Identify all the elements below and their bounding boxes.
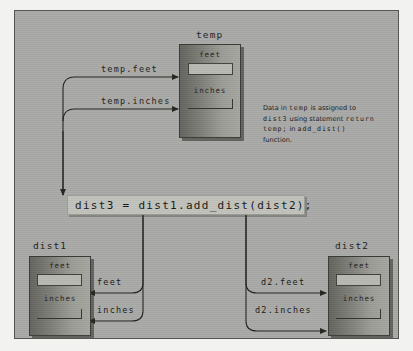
object-box-temp: feet inches <box>179 44 241 138</box>
object-label-dist1: dist1 <box>33 240 67 251</box>
note-line1-mono: temp <box>289 104 308 112</box>
field-label-dist2-inches: inches <box>329 294 389 303</box>
wire-label-dist2-inches: d2.inches <box>255 305 312 315</box>
note-line2-mono: dist3 <box>263 115 287 123</box>
note-line4-mono: add_dist() <box>298 125 347 133</box>
note-line2-post: using statement <box>287 115 343 123</box>
wire-label-dist2-feet: d2.feet <box>261 277 305 287</box>
field-slot-dist1-feet <box>37 274 82 286</box>
wire-temp-inches <box>63 109 178 121</box>
note-line1-post: is assigned to <box>308 104 356 112</box>
object-box-dist2: feet inches <box>328 256 390 336</box>
field-slot-dist2-inches <box>336 309 381 319</box>
wire-label-temp-inches: temp.inches <box>101 96 171 106</box>
note-line1-pre: Data in <box>263 104 289 112</box>
field-label-temp-feet: feet <box>180 50 240 59</box>
wire-label-temp-feet: temp.feet <box>101 64 158 74</box>
object-label-dist2: dist2 <box>335 240 369 251</box>
field-label-dist2-feet: feet <box>329 261 389 270</box>
statement-band: dist3 = dist1.add_dist(dist2); <box>67 195 305 215</box>
wire-label-dist1-feet: feet <box>97 277 122 287</box>
object-label-temp: temp <box>196 29 223 40</box>
field-label-temp-inches: inches <box>180 86 240 95</box>
wire-label-dist1-inches: inches <box>97 305 135 315</box>
diagram-panel: temp feet inches temp.feet temp.inches D… <box>14 10 399 339</box>
object-box-dist1: feet inches <box>29 256 91 336</box>
field-slot-temp-inches <box>188 99 233 109</box>
field-slot-temp-feet <box>188 63 233 75</box>
field-slot-dist1-inches <box>37 309 82 319</box>
wire-temp-feet <box>63 77 178 195</box>
note-line4-post: function. <box>263 136 292 144</box>
field-label-dist1-inches: inches <box>30 294 90 303</box>
field-label-dist1-feet: feet <box>30 261 90 270</box>
diagram-figure: temp feet inches temp.feet temp.inches D… <box>0 0 413 351</box>
annotation-note: Data in temp is assigned to dist3 using … <box>263 103 375 145</box>
note-line3-post: in <box>287 125 295 133</box>
field-slot-dist2-feet <box>336 274 381 286</box>
